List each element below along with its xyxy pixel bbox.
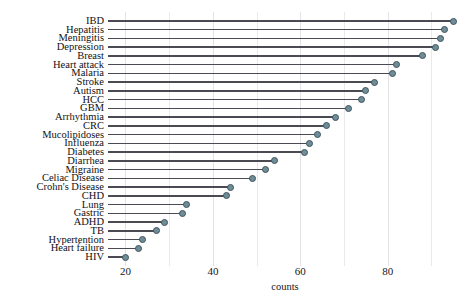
stem-line bbox=[108, 169, 265, 171]
stem-line bbox=[108, 239, 143, 241]
data-point-marker[interactable] bbox=[301, 149, 308, 156]
plot-area bbox=[108, 12, 462, 266]
stem-line bbox=[108, 213, 182, 215]
stem-line bbox=[108, 195, 226, 197]
stem-line bbox=[108, 230, 156, 232]
stem-line bbox=[108, 160, 274, 162]
stem-line bbox=[108, 64, 396, 66]
stem-line bbox=[108, 108, 348, 110]
data-point-marker[interactable] bbox=[161, 219, 168, 226]
stem-line bbox=[108, 221, 165, 223]
stem-line bbox=[108, 143, 309, 145]
data-point-marker[interactable] bbox=[441, 26, 448, 33]
data-point-marker[interactable] bbox=[323, 122, 330, 129]
stem-line bbox=[108, 73, 392, 75]
data-point-marker[interactable] bbox=[389, 70, 396, 77]
gridline-50 bbox=[257, 12, 258, 266]
stem-line bbox=[108, 81, 375, 83]
gridline-40 bbox=[213, 12, 214, 266]
x-axis-tick-label: 40 bbox=[207, 266, 218, 277]
data-point-marker[interactable] bbox=[437, 35, 444, 42]
x-axis-tick-label: 20 bbox=[120, 266, 131, 277]
data-point-marker[interactable] bbox=[183, 201, 190, 208]
x-axis-tick-label: 60 bbox=[295, 266, 306, 277]
data-point-marker[interactable] bbox=[249, 175, 256, 182]
gridline-20 bbox=[125, 12, 126, 266]
data-point-marker[interactable] bbox=[271, 157, 278, 164]
gridline-30 bbox=[169, 12, 170, 266]
data-point-marker[interactable] bbox=[345, 105, 352, 112]
data-point-marker[interactable] bbox=[358, 96, 365, 103]
y-axis-tick-label: HIV bbox=[85, 252, 104, 263]
stem-line bbox=[108, 20, 453, 22]
data-point-marker[interactable] bbox=[306, 140, 313, 147]
stem-line bbox=[108, 55, 423, 57]
x-axis-title: counts bbox=[108, 281, 462, 292]
x-axis-tick-label: 80 bbox=[382, 266, 393, 277]
data-point-marker[interactable] bbox=[153, 227, 160, 234]
stem-line bbox=[108, 186, 230, 188]
data-point-marker[interactable] bbox=[362, 87, 369, 94]
data-point-marker[interactable] bbox=[135, 245, 142, 252]
data-point-marker[interactable] bbox=[227, 184, 234, 191]
data-point-marker[interactable] bbox=[332, 114, 339, 121]
data-point-marker[interactable] bbox=[419, 52, 426, 59]
stem-line bbox=[108, 134, 318, 136]
stem-line bbox=[108, 116, 335, 118]
stem-line bbox=[108, 99, 361, 101]
lollipop-chart: IBDHepatitisMeningitisDepressionBreastHe… bbox=[0, 0, 466, 294]
data-point-marker[interactable] bbox=[122, 254, 129, 261]
data-point-marker[interactable] bbox=[432, 44, 439, 51]
stem-line bbox=[108, 204, 187, 206]
gridline-60 bbox=[300, 12, 301, 266]
data-point-marker[interactable] bbox=[314, 131, 321, 138]
data-point-marker[interactable] bbox=[371, 79, 378, 86]
gridline-80 bbox=[388, 12, 389, 266]
stem-line bbox=[108, 248, 139, 250]
stem-line bbox=[108, 178, 252, 180]
stem-line bbox=[108, 125, 327, 127]
data-point-marker[interactable] bbox=[393, 61, 400, 68]
data-point-marker[interactable] bbox=[262, 166, 269, 173]
data-point-marker[interactable] bbox=[139, 236, 146, 243]
gridline-70 bbox=[344, 12, 345, 266]
stem-line bbox=[108, 151, 305, 153]
data-point-marker[interactable] bbox=[223, 192, 230, 199]
stem-line bbox=[108, 38, 440, 40]
data-point-marker[interactable] bbox=[179, 210, 186, 217]
stem-line bbox=[108, 46, 436, 48]
y-axis-category-labels: IBDHepatitisMeningitisDepressionBreastHe… bbox=[0, 12, 104, 266]
data-point-marker[interactable] bbox=[450, 18, 457, 25]
stem-line bbox=[108, 29, 445, 31]
x-axis: counts 20406080 bbox=[108, 266, 462, 294]
stem-line bbox=[108, 90, 366, 92]
